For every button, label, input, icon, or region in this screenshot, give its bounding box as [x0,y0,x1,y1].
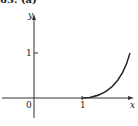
x-axis-label: x [130,100,135,110]
x-tick-label-1: 1 [80,100,86,110]
curve [82,53,130,98]
y-tick-label-1: 1 [26,48,32,58]
y-axis-label: y [28,10,33,20]
chart-plot [0,0,138,126]
origin-label: 0 [26,100,32,110]
